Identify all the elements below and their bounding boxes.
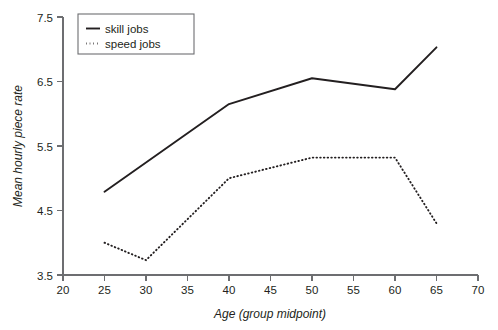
y-tick-label-4-5: 4.5 [37, 205, 53, 217]
x-tick-label-70: 70 [472, 284, 485, 296]
y-tick-label-5-5: 5.5 [37, 141, 53, 153]
x-axis-title: Age (group midpoint) [213, 307, 326, 321]
y-axis-ticks: 7.5 6.5 5.5 4.5 3.5 [37, 12, 63, 282]
x-tick-label-40: 40 [223, 284, 236, 296]
x-tick-label-55: 55 [347, 284, 360, 296]
legend-label-skill-jobs: skill jobs [105, 23, 149, 35]
line-chart-figure: 7.5 6.5 5.5 4.5 3.5 20 25 30 35 40 45 50 [0, 0, 498, 330]
y-tick-label-6-5: 6.5 [37, 76, 53, 88]
x-tick-label-25: 25 [98, 284, 111, 296]
chart-plot-area: 7.5 6.5 5.5 4.5 3.5 20 25 30 35 40 45 50 [0, 0, 498, 330]
series-line-skill-jobs [105, 47, 437, 191]
series-line-speed-jobs [105, 158, 437, 261]
legend-label-speed-jobs: speed jobs [105, 38, 161, 50]
x-tick-label-20: 20 [57, 284, 70, 296]
x-tick-label-50: 50 [306, 284, 319, 296]
x-axis-ticks: 20 25 30 35 40 45 50 55 60 65 70 [57, 275, 485, 296]
x-tick-label-45: 45 [264, 284, 277, 296]
x-tick-label-60: 60 [389, 284, 402, 296]
x-tick-label-35: 35 [181, 284, 194, 296]
y-tick-label-3-5: 3.5 [37, 270, 53, 282]
y-tick-label-7-5: 7.5 [37, 12, 53, 24]
x-tick-label-30: 30 [140, 284, 153, 296]
chart-legend: skill jobs speed jobs [78, 14, 194, 54]
y-axis-title: Mean hourly piece rate [11, 85, 25, 207]
x-tick-label-65: 65 [430, 284, 443, 296]
